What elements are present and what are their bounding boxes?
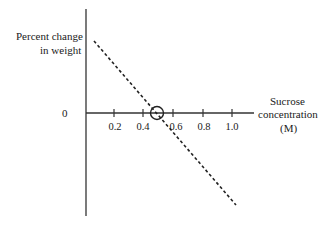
y-axis-zero-label: 0: [62, 107, 68, 120]
x-axis-label-line1: Sucrose: [270, 95, 305, 108]
y-axis-label-line1: Percent change: [16, 30, 83, 43]
x-axis-label-line3: (M): [280, 122, 297, 135]
x-axis-label-line2: concentration: [258, 108, 318, 121]
x-tick-label-0.2: 0.2: [108, 121, 121, 133]
x-tick-label-0.6: 0.6: [169, 121, 182, 133]
x-tick-label-0.4: 0.4: [136, 121, 149, 133]
x-tick-label-0.8: 0.8: [197, 121, 210, 133]
y-axis-label-line2: in weight: [40, 44, 81, 57]
x-tick-label-1.0: 1.0: [225, 121, 238, 133]
